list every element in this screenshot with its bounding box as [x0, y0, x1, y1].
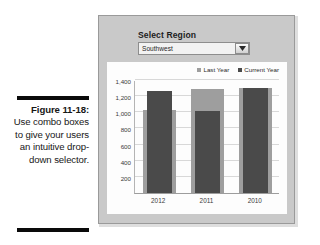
- bar-group: [143, 81, 176, 193]
- bar-current-year: [243, 88, 268, 193]
- legend-label-last-year: Last Year: [203, 66, 229, 73]
- x-axis-labels: 201220112010: [134, 197, 279, 204]
- figure-caption-text: Use combo boxes to give your users an in…: [14, 116, 89, 164]
- region-combo-value: Southwest: [142, 45, 173, 52]
- y-axis-tick: 400: [121, 158, 131, 165]
- bars-layer: [135, 81, 279, 193]
- caption-rule-bottom: [17, 228, 89, 232]
- caption-rule-top: [17, 96, 89, 100]
- bar-group: [239, 81, 272, 193]
- y-axis-tick: 800: [121, 126, 131, 133]
- select-region-label: Select Region: [138, 30, 196, 40]
- y-axis-tick: 1,200: [116, 94, 131, 101]
- legend-swatch-last-year: [197, 68, 201, 72]
- legend-swatch-current-year: [238, 68, 242, 72]
- legend-item-last-year: Last Year: [197, 66, 229, 73]
- chart-legend: Last Year Current Year: [197, 66, 279, 73]
- bar-current-year: [147, 91, 172, 194]
- y-axis-tick: 1,400: [116, 78, 131, 85]
- y-axis-tick: 600: [121, 142, 131, 149]
- y-axis-tick: 1,000: [116, 110, 131, 117]
- region-combo-box[interactable]: Southwest: [138, 42, 250, 55]
- chart-card: Last Year Current Year 2004006008001,000…: [107, 62, 287, 214]
- plot-area: [134, 81, 279, 194]
- figure-caption: Figure 11-18: Use combo boxes to give yo…: [13, 104, 89, 166]
- legend-item-current-year: Current Year: [238, 66, 279, 73]
- legend-label-current-year: Current Year: [244, 66, 279, 73]
- y-axis-tick: 200: [121, 174, 131, 181]
- chevron-down-icon[interactable]: [235, 43, 249, 54]
- app-panel: Select Region Southwest Last Year Curren…: [98, 15, 295, 224]
- x-axis-tick: 2012: [142, 197, 175, 204]
- bar-group: [191, 81, 224, 193]
- x-axis-tick: 2010: [238, 197, 271, 204]
- figure-number: Figure 11-18:: [13, 104, 89, 116]
- y-axis-labels: 2004006008001,0001,2001,400: [107, 81, 133, 194]
- bar-current-year: [195, 111, 220, 193]
- x-axis-tick: 2011: [190, 197, 223, 204]
- plot-wrapper: 2004006008001,0001,2001,400 201220112010: [107, 81, 287, 214]
- gridline: [135, 79, 279, 80]
